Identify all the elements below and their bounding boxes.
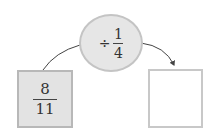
input-fraction-box: 8 11 — [17, 70, 73, 128]
input-denominator: 11 — [35, 102, 54, 117]
output-answer-box[interactable] — [148, 69, 203, 128]
operation-denominator: 4 — [114, 46, 123, 60]
division-operator: ÷ — [99, 35, 111, 51]
connector-input-to-operation — [43, 45, 80, 70]
operation-numerator: 1 — [114, 27, 123, 41]
arrow-operation-to-output — [141, 43, 174, 65]
input-fraction: 8 11 — [33, 82, 57, 117]
fraction-bar — [113, 43, 123, 44]
operation-fraction: 1 4 — [113, 27, 123, 60]
operation-ellipse: ÷ 1 4 — [79, 14, 143, 72]
input-numerator: 8 — [40, 82, 50, 97]
